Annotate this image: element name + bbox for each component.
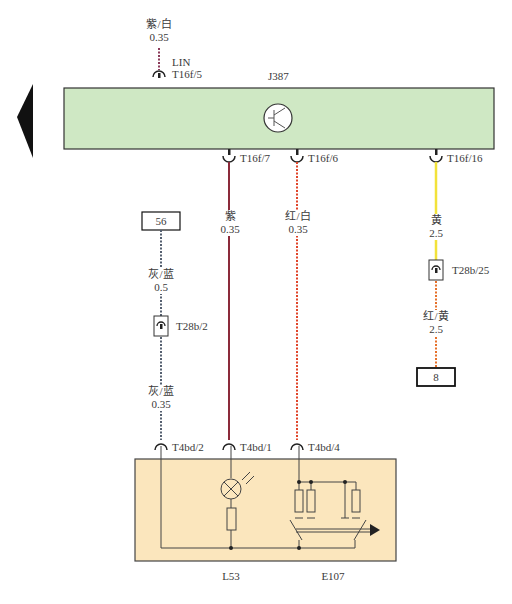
terminal-56-label: 56 [156, 215, 167, 228]
terminal-8-label: 8 [433, 371, 439, 384]
pin-label: T16f/6 [308, 152, 338, 165]
wire-color: 灰/蓝 [148, 268, 173, 281]
connector-label: T28b/25 [452, 264, 489, 277]
lin-wire-gauge: 0.35 [149, 31, 168, 44]
wiring-diagram [0, 0, 512, 604]
transistor-icon [264, 104, 292, 132]
component-label-l53: L53 [222, 570, 240, 583]
wire-gauge: 0.5 [154, 281, 168, 294]
connector-label: T28b/2 [176, 320, 208, 333]
wire-gauge: 2.5 [429, 323, 443, 336]
wire-color: 红/黄 [423, 310, 448, 323]
pin-label: T16f/16 [447, 152, 482, 165]
wire-gauge: 0.35 [288, 223, 307, 236]
pin-label: T4bd/1 [240, 441, 272, 454]
wire-gauge: 0.35 [151, 398, 170, 411]
wire-color: 红/白 [285, 210, 310, 223]
wire-gauge: 2.5 [429, 227, 443, 240]
wire-color: 紫 [225, 210, 236, 223]
component-box [135, 459, 396, 561]
left-arrow-icon [17, 84, 33, 158]
wire-color: 灰/蓝 [148, 385, 173, 398]
component-label-e107: E107 [321, 570, 344, 583]
pin-label: T4bd/4 [308, 441, 340, 454]
wire-color: 黄 [431, 214, 442, 227]
wire-gauge: 0.35 [220, 223, 239, 236]
pin-label: T16f/7 [240, 152, 270, 165]
lin-wire-color: 紫/白 [146, 18, 171, 31]
module-id: J387 [268, 70, 289, 83]
lin-pin: T16f/5 [172, 68, 202, 81]
pin-label: T4bd/2 [172, 441, 204, 454]
